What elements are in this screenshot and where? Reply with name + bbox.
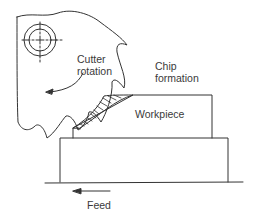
cutter-rotation-label-line1: Cutter [77,53,112,65]
chip-formation-label: Chip formation [155,60,199,84]
feed-label: Feed [87,199,111,211]
base-block-outline [60,138,228,182]
chip-formation-label-line2: formation [155,72,199,84]
cutter-rotation-label: Cutter rotation [77,53,112,77]
chip-formation-label-line1: Chip [155,60,199,72]
rotation-arrowhead-icon [46,89,53,94]
workpiece-label: Workpiece [135,108,184,120]
cutter-rotation-label-line2: rotation [77,65,112,77]
feed-arrowhead-icon [73,189,81,194]
ground-line [45,182,243,183]
chip-hatching [76,95,121,129]
milling-diagram [0,0,261,214]
